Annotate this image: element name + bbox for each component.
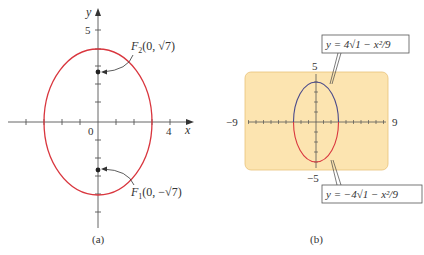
caption-a: (a) bbox=[92, 233, 105, 246]
y-tick-label-5: 5 bbox=[85, 24, 91, 36]
x-max-label: 9 bbox=[392, 116, 398, 128]
y-axis-label: y bbox=[85, 5, 92, 19]
focus-f2-point bbox=[96, 70, 101, 75]
focus-f1-point bbox=[96, 168, 101, 173]
focus-f1-label: F1(0, −√7) bbox=[130, 185, 182, 201]
arrow-icon bbox=[101, 167, 107, 172]
focus-f2-label: F2(0, √7) bbox=[130, 39, 175, 55]
panel-b: −9 9 5 −5 y = 4√1 − x²/9 y = −4√1 − x²/9… bbox=[226, 35, 422, 246]
panel-a: y x 5 0 4 F2(0, √7) F1(0, −√7) (a) bbox=[8, 5, 194, 246]
figure: y x 5 0 4 F2(0, √7) F1(0, −√7) (a) bbox=[0, 0, 424, 255]
y-max-label: 5 bbox=[312, 60, 318, 72]
upper-equation: y = 4√1 − x²/9 bbox=[325, 38, 391, 50]
y-min-label: −5 bbox=[307, 172, 319, 184]
x-tick-label-4: 4 bbox=[166, 125, 172, 137]
graph-window bbox=[245, 72, 388, 170]
caption-b: (b) bbox=[310, 233, 323, 246]
x-min-label: −9 bbox=[226, 116, 238, 128]
x-axis-label: x bbox=[184, 123, 191, 137]
y-axis-arrow-icon bbox=[95, 8, 101, 16]
arrow-icon bbox=[101, 70, 107, 75]
focus-f1-leader bbox=[103, 169, 134, 185]
origin-label: 0 bbox=[88, 125, 94, 137]
lower-equation: y = −4√1 − x²/9 bbox=[325, 188, 398, 200]
focus-f2-leader bbox=[103, 55, 133, 72]
